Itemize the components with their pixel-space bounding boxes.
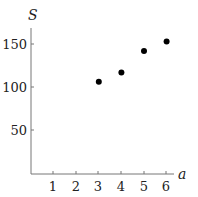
y-tick-label: 50 [10, 123, 27, 138]
x-tick-label: 3 [94, 179, 102, 194]
y-tick-label: 100 [2, 80, 27, 95]
x-tick-label: 5 [140, 179, 148, 194]
x-axis-label: a [178, 166, 186, 182]
x-tick-label: 4 [117, 179, 125, 194]
y-axis-label: S [28, 7, 38, 23]
y-tick-label: 150 [2, 37, 27, 52]
data-points [96, 38, 170, 84]
x-tick-label: 6 [162, 179, 170, 194]
data-point [96, 79, 102, 85]
data-point [118, 69, 124, 75]
y-ticks: 50 100 150 [2, 37, 34, 138]
data-point [141, 48, 147, 54]
x-tick-label: 1 [49, 179, 57, 194]
data-point [164, 38, 170, 44]
scatter-chart: S a 1 2 3 4 5 6 50 100 150 [0, 0, 198, 197]
x-tick-label: 2 [72, 179, 80, 194]
